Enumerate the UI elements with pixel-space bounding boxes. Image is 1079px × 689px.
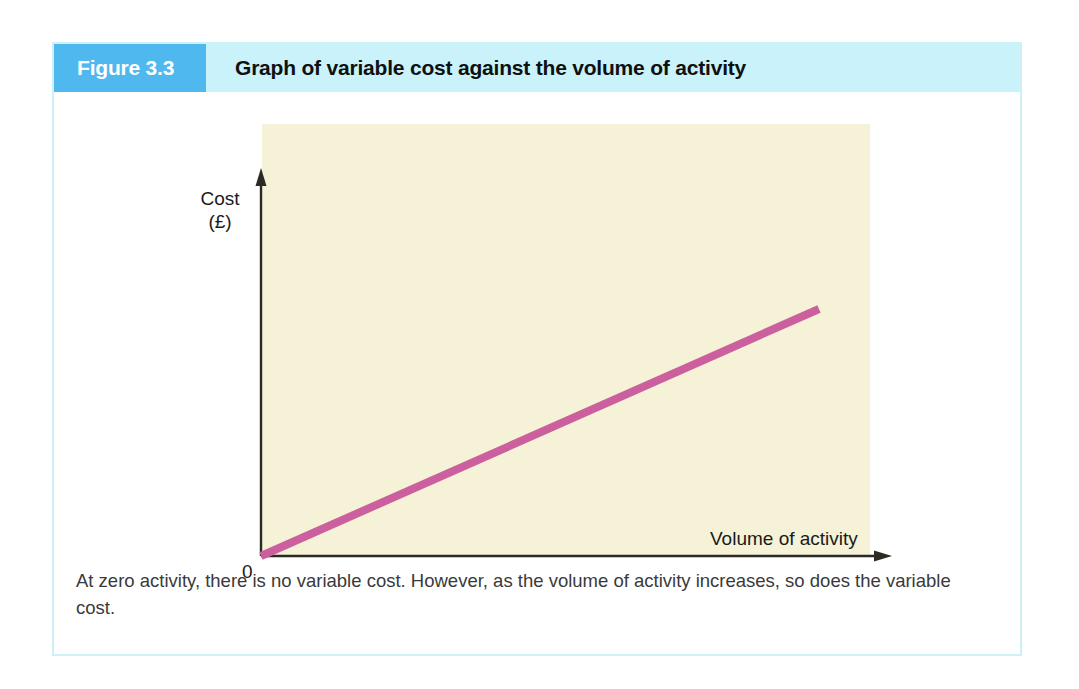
figure-title: Graph of variable cost against the volum… <box>206 56 1020 80</box>
plot-area-background <box>262 124 870 556</box>
figure-header: Figure 3.3 Graph of variable cost agains… <box>54 44 1020 92</box>
chart-region: Cost (£) Volume of activity 0 <box>54 92 1020 562</box>
figure-number-tag: Figure 3.3 <box>54 44 206 92</box>
figure-box: Figure 3.3 Graph of variable cost agains… <box>52 42 1022 656</box>
x-axis-label: Volume of activity <box>710 527 858 550</box>
x-axis-arrowhead <box>874 551 892 562</box>
y-axis-label-line-1: Cost <box>200 188 239 209</box>
y-axis-label-line-2: (£) <box>208 211 231 232</box>
variable-cost-chart <box>54 92 1020 562</box>
y-axis-label: Cost (£) <box>187 187 253 233</box>
figure-caption: At zero activity, there is no variable c… <box>76 567 986 621</box>
